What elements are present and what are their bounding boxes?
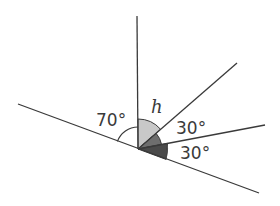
label-upper-30: 30° [176, 118, 206, 138]
label-lower-30: 30° [180, 143, 210, 163]
label-70: 70° [96, 110, 126, 130]
label-h: h [151, 96, 163, 117]
vertical-ray [137, 16, 138, 149]
angle-diagram: 70° h 30° 30° [0, 0, 280, 206]
